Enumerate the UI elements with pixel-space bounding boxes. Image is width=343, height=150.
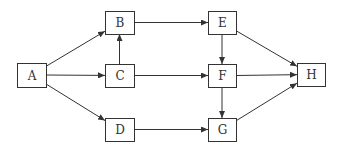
edge-a-to-b xyxy=(46,31,105,66)
node-label: E xyxy=(218,16,227,30)
node-label: H xyxy=(306,68,316,82)
node-d: D xyxy=(106,119,135,142)
node-label: D xyxy=(115,123,125,137)
node-f: F xyxy=(209,65,237,88)
edge-g-to-h xyxy=(236,83,297,121)
edge-e-to-h xyxy=(236,31,297,67)
node-label: B xyxy=(116,16,125,30)
node-label: G xyxy=(218,123,228,137)
node-h: H xyxy=(298,64,326,87)
nodes-layer: ABCDEFGH xyxy=(18,12,326,142)
edges-layer xyxy=(46,23,297,130)
node-label: C xyxy=(115,69,124,83)
node-b: B xyxy=(106,12,135,35)
flow-diagram: ABCDEFGH xyxy=(0,0,343,150)
node-label: F xyxy=(218,69,226,83)
edge-a-to-d xyxy=(46,84,105,121)
node-e: E xyxy=(209,12,237,35)
node-c: C xyxy=(106,65,135,88)
node-g: G xyxy=(209,119,237,142)
node-label: A xyxy=(27,69,37,83)
edge-f-to-h xyxy=(236,75,297,76)
node-a: A xyxy=(18,64,47,88)
